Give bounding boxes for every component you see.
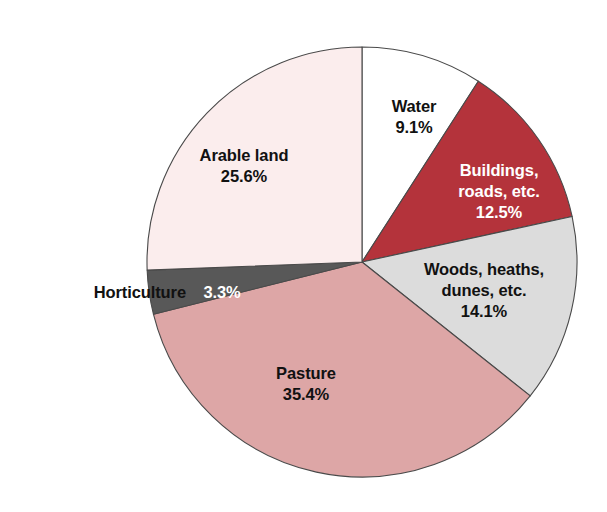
slice-label-woods-name-line2: dunes, etc.	[404, 280, 564, 301]
slice-label-water: Water 9.1%	[361, 96, 467, 138]
slice-label-horticulture-value: 3.3%	[203, 283, 240, 301]
pie-chart: Water 9.1% Buildings, roads, etc. 12.5% …	[0, 0, 607, 512]
slice-label-water-name: Water	[361, 96, 467, 117]
slice-label-pasture-value: 35.4%	[236, 384, 376, 405]
slice-label-water-value: 9.1%	[361, 117, 467, 138]
slice-label-buildings-name-line1: Buildings,	[437, 160, 561, 181]
slice-label-horticulture-name: Horticulture	[94, 283, 186, 301]
slice-label-buildings-value: 12.5%	[437, 202, 561, 223]
slice-label-woods-name-line1: Woods, heaths,	[404, 259, 564, 280]
slice-label-horticulture: Horticulture	[38, 282, 186, 303]
slice-label-pasture: Pasture 35.4%	[236, 363, 376, 405]
slice-label-arable-land-name: Arable land	[163, 145, 325, 166]
slice-label-horticulture-value-box: 3.3%	[190, 282, 254, 303]
slice-label-buildings: Buildings, roads, etc. 12.5%	[437, 160, 561, 222]
slice-label-woods-value: 14.1%	[404, 301, 564, 322]
pie-chart-svg	[0, 0, 607, 512]
slice-label-arable-land-value: 25.6%	[163, 166, 325, 187]
slice-label-pasture-name: Pasture	[236, 363, 376, 384]
slice-label-arable-land: Arable land 25.6%	[163, 145, 325, 187]
slice-label-woods: Woods, heaths, dunes, etc. 14.1%	[404, 259, 564, 321]
slice-label-buildings-name-line2: roads, etc.	[437, 181, 561, 202]
